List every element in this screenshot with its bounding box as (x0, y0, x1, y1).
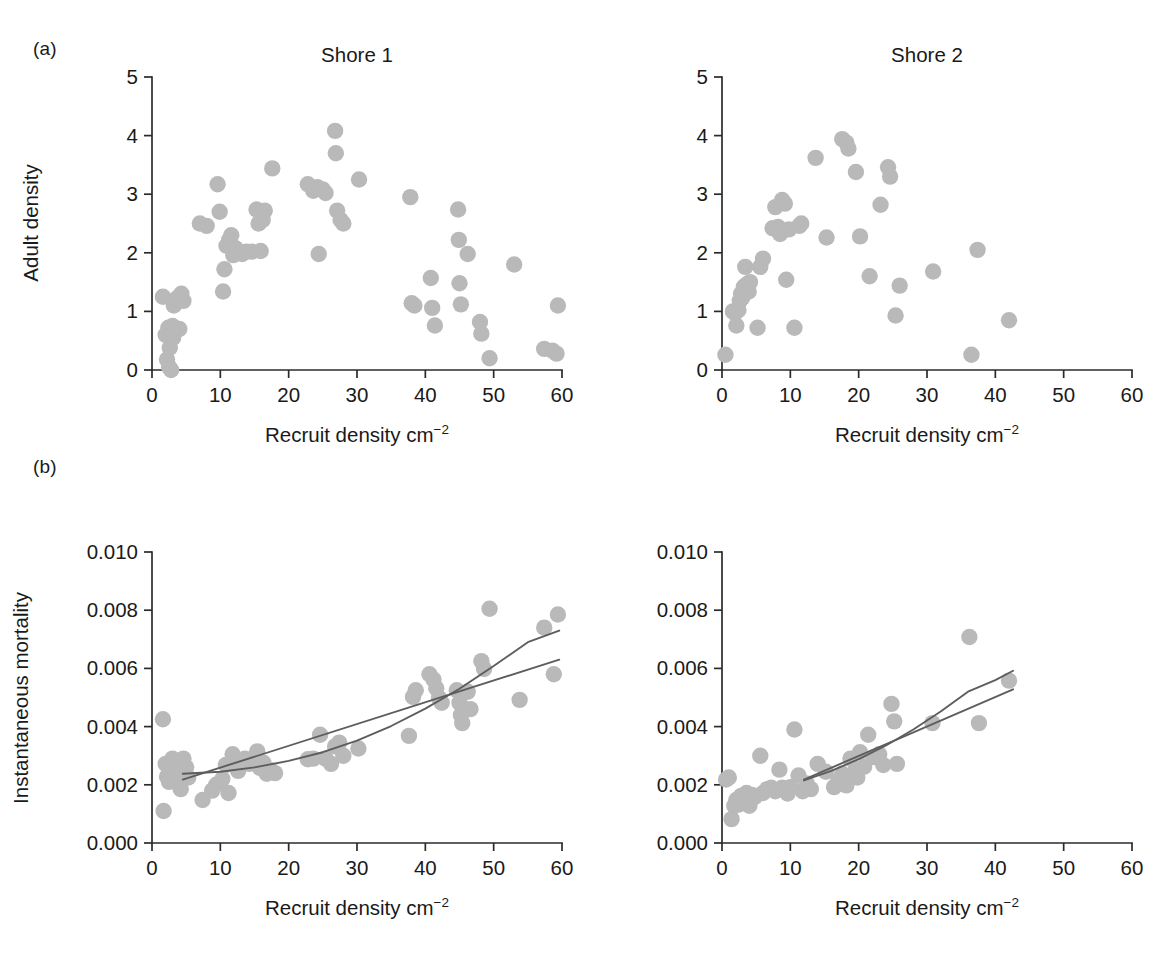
x-tick-label: 10 (779, 383, 802, 406)
data-point (427, 317, 443, 333)
data-point (883, 696, 899, 712)
x-tick-label: 40 (414, 383, 437, 406)
chart-a-shore1: 0102030405060012345 Shore 1 Recruit dens… (0, 22, 600, 452)
x-tick-label: 40 (984, 383, 1007, 406)
data-point (778, 272, 794, 288)
x-axis-title-b2: Recruit density cm−2 (835, 895, 1019, 919)
y-tick-label: 0.000 (657, 831, 708, 854)
data-point (252, 243, 268, 259)
x-tick-label: 0 (146, 856, 157, 879)
data-point (214, 771, 230, 787)
x-tick-label: 60 (1121, 856, 1144, 879)
y-tick-label: 0.010 (657, 540, 708, 563)
data-point (1001, 312, 1017, 328)
chart-title-shore1: Shore 1 (321, 43, 393, 66)
y-tick-label: 0.000 (87, 831, 138, 854)
data-point (807, 150, 823, 166)
data-point (460, 246, 476, 262)
y-tick-label: 0 (697, 358, 708, 381)
x-ticks-a2 (722, 370, 1132, 378)
y-tick-label: 0.002 (87, 773, 138, 796)
tick-labels-b1: 01020304050600.0000.0020.0040.0060.0080.… (87, 540, 574, 879)
x-tick-label: 30 (916, 383, 939, 406)
data-point (209, 176, 225, 192)
data-point (755, 250, 771, 266)
data-point (406, 297, 422, 313)
data-point (451, 232, 467, 248)
y-tick-label: 0 (127, 358, 138, 381)
data-point (462, 701, 478, 717)
data-point (215, 283, 231, 299)
x-axis-title-text: Recruit density cm (835, 423, 1004, 446)
data-point (481, 350, 497, 366)
y-tick-label: 5 (127, 65, 138, 88)
x-tick-label: 40 (984, 856, 1007, 879)
data-point (317, 185, 333, 201)
data-point (198, 218, 214, 234)
data-point (786, 320, 802, 336)
data-point (793, 215, 809, 231)
data-point (737, 259, 753, 275)
x-axis-title-sup: −2 (1004, 895, 1019, 910)
y-tick-label: 2 (697, 241, 708, 264)
data-point (401, 728, 417, 744)
data-point (803, 781, 819, 797)
points-b1 (155, 601, 566, 820)
x-tick-label: 20 (277, 383, 300, 406)
data-point (453, 296, 469, 312)
data-point (450, 201, 466, 217)
data-point (155, 711, 171, 727)
y-tick-label: 3 (697, 182, 708, 205)
data-point (171, 321, 187, 337)
x-ticks-b1 (152, 843, 562, 851)
y-ticks-a1 (144, 77, 152, 370)
data-point (408, 682, 424, 698)
data-point (886, 713, 902, 729)
data-point (335, 215, 351, 231)
data-point (423, 270, 439, 286)
chart-b-shore1: 01020304050600.0000.0020.0040.0060.0080.… (0, 470, 600, 930)
data-point (451, 275, 467, 291)
data-point (728, 317, 744, 333)
x-tick-label: 0 (146, 383, 157, 406)
data-point (752, 748, 768, 764)
chart-title-shore2: Shore 2 (891, 43, 963, 66)
x-tick-label: 0 (716, 856, 727, 879)
y-ticks-b1 (144, 552, 152, 843)
data-point (311, 246, 327, 262)
data-point (351, 171, 367, 187)
data-point (771, 761, 787, 777)
data-point (220, 785, 236, 801)
y-tick-label: 4 (697, 124, 708, 147)
x-axis-title-text: Recruit density cm (265, 423, 434, 446)
points-a2 (717, 131, 1017, 363)
x-axis-title-sup: −2 (434, 895, 449, 910)
data-point (511, 692, 527, 708)
y-tick-label: 0.008 (657, 598, 708, 621)
data-point (818, 229, 834, 245)
x-axis-title-a2: Recruit density cm−2 (835, 422, 1019, 446)
figure-root: (a) (b) 0102030405060012345 Shore 1 Recr… (0, 0, 1160, 954)
tick-labels-b2: 01020304050600.0000.0020.0040.0060.0080.… (657, 540, 1144, 879)
chart-b-shore2: 01020304050600.0000.0020.0040.0060.0080.… (570, 470, 1160, 930)
x-tick-label: 20 (847, 856, 870, 879)
data-point (963, 347, 979, 363)
data-point (267, 765, 283, 781)
linear-fit (183, 660, 560, 780)
y-axis-title-a1: Adult density (19, 164, 42, 282)
y-tick-label: 5 (697, 65, 708, 88)
data-point (460, 683, 476, 699)
y-tick-label: 0.010 (87, 540, 138, 563)
data-point (749, 320, 765, 336)
data-point (550, 297, 566, 313)
y-tick-label: 0.002 (657, 773, 708, 796)
data-point (872, 197, 888, 213)
x-tick-label: 50 (1052, 383, 1075, 406)
y-ticks-a2 (714, 77, 722, 370)
y-tick-label: 4 (127, 124, 138, 147)
y-tick-label: 3 (127, 182, 138, 205)
y-tick-label: 0.004 (657, 715, 708, 738)
data-point (481, 601, 497, 617)
data-point (454, 715, 470, 731)
x-axis-title-text: Recruit density cm (265, 896, 434, 919)
